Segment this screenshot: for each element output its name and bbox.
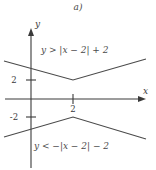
lower-boundary-curve <box>4 117 146 139</box>
y-tick-label-2: 2 <box>11 75 16 85</box>
figure-container: a) y x 2 -2 2 y > |x − 2| + 2 y < −|x − … <box>0 0 156 170</box>
x-tick-label-2: 2 <box>70 104 75 114</box>
y-axis-label: y <box>34 19 41 29</box>
x-axis-arrow-icon <box>138 96 146 102</box>
x-axis-label: x <box>143 86 148 96</box>
lower-inequality-label: y < −|x − 2| − 2 <box>33 141 109 152</box>
y-tick-label-neg2: -2 <box>10 112 18 122</box>
y-axis-arrow-icon <box>28 28 34 36</box>
upper-boundary-curve <box>4 59 146 80</box>
upper-inequality-label: y > |x − 2| + 2 <box>40 45 109 56</box>
coordinate-plot: y x 2 -2 2 y > |x − 2| + 2 y < −|x − 2| … <box>0 0 156 170</box>
